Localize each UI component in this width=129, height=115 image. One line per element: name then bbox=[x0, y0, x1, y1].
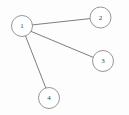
graph-canvas: 1 2 3 4 bbox=[0, 0, 129, 115]
node-4[interactable]: 4 bbox=[39, 88, 60, 109]
node-3[interactable]: 3 bbox=[93, 51, 114, 72]
node-1-label: 1 bbox=[20, 22, 24, 30]
node-1[interactable]: 1 bbox=[12, 16, 33, 37]
edge-layer bbox=[26, 19, 93, 88]
node-layer: 1 2 3 4 bbox=[12, 7, 114, 109]
graph-figure: 1 2 3 4 bbox=[0, 0, 129, 115]
node-4-label: 4 bbox=[47, 94, 51, 102]
node-2-label: 2 bbox=[99, 14, 103, 22]
node-3-label: 3 bbox=[101, 57, 105, 65]
edge-1-2 bbox=[32, 19, 90, 25]
node-2[interactable]: 2 bbox=[90, 7, 111, 28]
edge-1-4 bbox=[26, 36, 46, 88]
edge-1-3 bbox=[31, 32, 93, 58]
